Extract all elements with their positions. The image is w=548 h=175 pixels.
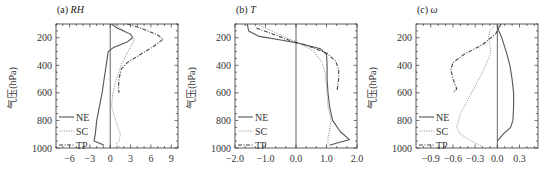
x-tick-label: 9	[169, 153, 174, 164]
x-tick-label: 2.0	[351, 153, 364, 164]
legend-label-tp: TP	[436, 140, 448, 151]
x-tick-label: 0.0	[491, 153, 504, 164]
series-line-sc	[112, 24, 135, 148]
x-tick-label: −2.0	[226, 153, 244, 164]
x-tick-label: 0	[108, 153, 113, 164]
legend-label-tp: TP	[255, 140, 267, 151]
y-tick-label: 600	[216, 87, 231, 98]
y-axis-label: 气压(hPa)	[6, 67, 19, 109]
legend-label-ne: NE	[76, 112, 89, 123]
x-tick-label: −0.3	[466, 153, 484, 164]
y-tick-label: 200	[216, 32, 231, 43]
y-tick-label: 800	[216, 115, 231, 126]
y-tick-label: 400	[216, 60, 231, 71]
series-line-ne	[497, 24, 513, 141]
x-tick-label: −3	[85, 153, 96, 164]
x-tick-label: 0.3	[513, 153, 526, 164]
y-tick-label: 800	[397, 115, 412, 126]
x-tick-label: 0.0	[290, 153, 303, 164]
y-axis-label: 气压(hPa)	[185, 67, 198, 109]
series-line-tp	[451, 24, 501, 93]
y-tick-label: 1000	[211, 143, 231, 154]
plot-frame	[56, 24, 178, 148]
panel-title: (a) RH	[57, 4, 85, 16]
y-tick-label: 800	[37, 115, 52, 126]
panel-title: (b) T	[236, 4, 257, 16]
x-tick-label: −0.9	[422, 153, 440, 164]
x-tick-label: 6	[148, 153, 153, 164]
panel-a: (a) RH−6−303692004006008001000气压(hPa)NES…	[6, 4, 178, 164]
series-line-tp	[118, 24, 163, 93]
y-tick-label: 200	[397, 32, 412, 43]
series-line-sc	[457, 24, 496, 147]
y-axis-label: 气压(hPa)	[366, 67, 379, 109]
y-tick-label: 1000	[392, 143, 412, 154]
y-tick-label: 400	[37, 60, 52, 71]
y-tick-label: 400	[397, 60, 412, 71]
series-line-ne	[94, 24, 133, 145]
y-tick-label: 600	[37, 87, 52, 98]
legend-label-ne: NE	[255, 112, 268, 123]
legend-label-sc: SC	[255, 126, 268, 137]
x-tick-label: −6	[64, 153, 75, 164]
x-tick-label: −1.0	[256, 153, 274, 164]
x-tick-label: 3	[128, 153, 133, 164]
x-tick-label: −0.6	[444, 153, 462, 164]
legend-label-sc: SC	[76, 126, 89, 137]
panel-b: (b) T−2.0−1.00.01.02.02004006008001000气压…	[185, 4, 363, 164]
y-tick-label: 1000	[32, 143, 52, 154]
legend-label-ne: NE	[436, 112, 449, 123]
figure: (a) RH−6−303692004006008001000气压(hPa)NES…	[0, 0, 548, 175]
x-tick-label: 1.0	[320, 153, 333, 164]
plot-frame	[416, 24, 538, 148]
legend-label-tp: TP	[76, 140, 88, 151]
legend-label-sc: SC	[436, 126, 449, 137]
y-tick-label: 200	[37, 32, 52, 43]
panel-title: (c) ω	[417, 4, 438, 16]
panel-c: (c) ω−0.9−0.6−0.30.00.32004006008001000气…	[366, 4, 538, 164]
y-tick-label: 600	[397, 87, 412, 98]
